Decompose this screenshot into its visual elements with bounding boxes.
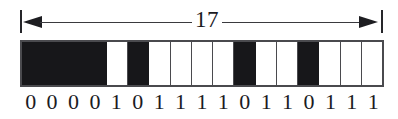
bit-cell bbox=[107, 42, 128, 85]
bit-label: 0 bbox=[234, 88, 255, 116]
bit-cell bbox=[22, 42, 43, 85]
binary-string-figure: 17 00001011110110111 bbox=[0, 0, 398, 119]
dimension-tick-right bbox=[381, 10, 383, 33]
bit-label: 0 bbox=[298, 88, 319, 116]
bit-label: 0 bbox=[20, 88, 41, 116]
dimension-rule-left bbox=[40, 22, 192, 23]
bit-cell bbox=[319, 42, 340, 85]
bit-label: 0 bbox=[63, 88, 84, 116]
bit-cell bbox=[362, 42, 382, 85]
bit-label: 1 bbox=[148, 88, 169, 116]
dimension-line: 17 bbox=[18, 6, 386, 36]
bit-label: 1 bbox=[341, 88, 362, 116]
bit-label: 1 bbox=[363, 88, 384, 116]
bit-cell bbox=[86, 42, 107, 85]
dimension-rule-right bbox=[222, 22, 361, 23]
bit-cell bbox=[298, 42, 319, 85]
bit-cell bbox=[341, 42, 362, 85]
bit-cell bbox=[234, 42, 255, 85]
bit-cell bbox=[277, 42, 298, 85]
bit-label: 0 bbox=[127, 88, 148, 116]
dimension-label: 17 bbox=[181, 5, 233, 35]
bit-bar bbox=[20, 40, 384, 87]
bit-label: 0 bbox=[84, 88, 105, 116]
bit-label: 1 bbox=[106, 88, 127, 116]
bit-cell bbox=[192, 42, 213, 85]
bit-label: 1 bbox=[213, 88, 234, 116]
bit-cell bbox=[149, 42, 170, 85]
bit-label: 1 bbox=[255, 88, 276, 116]
arrow-right-icon bbox=[359, 16, 378, 28]
bit-label: 1 bbox=[277, 88, 298, 116]
bit-cell bbox=[171, 42, 192, 85]
bit-label: 1 bbox=[170, 88, 191, 116]
bit-cell bbox=[213, 42, 234, 85]
bit-cell bbox=[43, 42, 64, 85]
bit-label-row: 00001011110110111 bbox=[20, 88, 384, 116]
bit-label: 1 bbox=[320, 88, 341, 116]
bit-cell bbox=[64, 42, 85, 85]
dimension-tick-left bbox=[20, 10, 22, 33]
bit-label: 0 bbox=[41, 88, 62, 116]
bit-cell bbox=[128, 42, 149, 85]
bit-cell bbox=[256, 42, 277, 85]
bit-label: 1 bbox=[191, 88, 212, 116]
